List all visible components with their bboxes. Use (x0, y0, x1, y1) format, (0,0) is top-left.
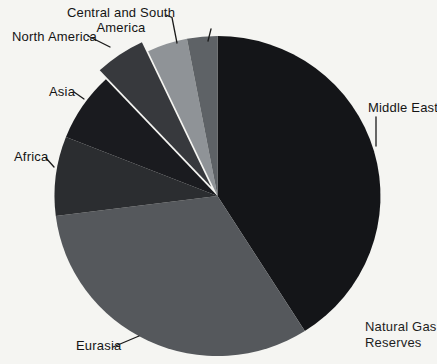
chart-caption-line1: Natural Gas (365, 319, 437, 335)
label-middle-east: Middle East (368, 100, 437, 115)
label-eurasia: Eurasia (76, 338, 121, 353)
pie-chart-canvas (0, 0, 437, 364)
chart-caption: Natural Gas Reserves (365, 319, 437, 352)
leader-asia (74, 92, 84, 99)
natural-gas-reserves-pie-chart: Central and South America North America … (0, 0, 437, 364)
label-africa: Africa (14, 149, 48, 164)
label-north-america: North America (12, 29, 97, 44)
label-asia: Asia (49, 84, 75, 99)
chart-caption-line2: Reserves (365, 335, 437, 351)
